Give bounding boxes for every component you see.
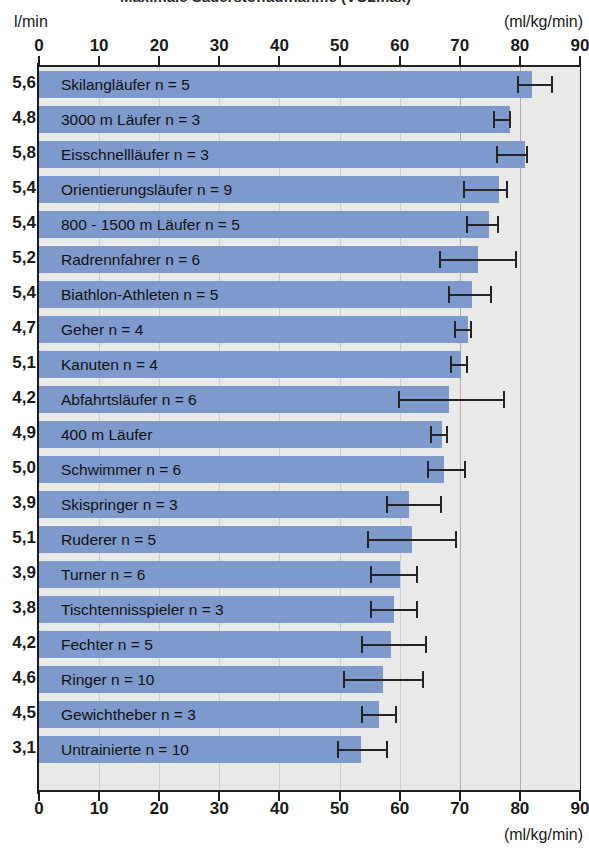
secondary-value-label: 4,8 [0,104,36,131]
tickmark-top-50 [339,56,341,65]
error-bar [367,531,457,548]
x-tick-label-bottom-0: 0 [34,799,43,819]
error-bar [370,601,418,618]
x-tick-label-bottom-80: 80 [510,799,529,819]
x-tick-label-top-90: 90 [571,36,589,56]
error-bar-stem [370,609,418,611]
error-bar [454,321,472,338]
error-bar-cap-low [439,251,441,268]
error-bar [361,636,427,653]
error-bar-cap-high [416,601,418,618]
error-bar-cap-low [337,741,339,758]
tickmark-bottom-70 [459,792,461,801]
tickmark-top-30 [218,56,220,65]
bar-label: Turner n = 6 [61,561,145,588]
x-tick-label-bottom-50: 50 [330,799,349,819]
bar-label: Untrainierte n = 10 [61,736,189,763]
bar-label: Orientierungsläufer n = 9 [61,176,232,203]
bar-label: Skispringer n = 3 [61,491,178,518]
error-bar [450,356,468,373]
bar-label: Skilangläufer n = 5 [61,71,190,98]
error-bar [496,146,528,163]
chart-row: Ruderer n = 5 [39,522,580,557]
x-tick-label-bottom-60: 60 [390,799,409,819]
bar-label: Eisschnellläufer n = 3 [61,141,209,168]
error-bar-cap-low [367,531,369,548]
chart-row: Turner n = 6 [39,557,580,592]
x-tick-label-top-70: 70 [450,36,469,56]
secondary-value-label: 5,4 [0,174,36,201]
error-bar-cap-high [395,706,397,723]
chart-row: Tischtennisspieler n = 3 [39,592,580,627]
x-tick-label-top-50: 50 [330,36,349,56]
error-bar [361,706,397,723]
error-bar-cap-high [526,146,528,163]
chart-row: Skispringer n = 3 [39,487,580,522]
x-axis-unit-label-bottom: (ml/kg/min) [504,826,583,844]
bar-label: Geher n = 4 [61,316,143,343]
x-tick-label-bottom-10: 10 [90,799,109,819]
y-axis-unit-label: l/min [14,13,48,31]
error-bar-stem [517,84,553,86]
secondary-value-label: 4,5 [0,699,36,726]
plot-area: Skilangläufer n = 53000 m Läufer n = 3Ei… [39,65,580,792]
chart-row: 3000 m Läufer n = 3 [39,102,580,137]
error-bar-cap-high [497,216,499,233]
error-bar [343,671,424,688]
error-bar [386,496,441,513]
chart-row: 400 m Läufer [39,417,580,452]
error-bar-cap-low [454,321,456,338]
error-bar [517,76,553,93]
x-tick-label-bottom-20: 20 [150,799,169,819]
secondary-value-label: 5,8 [0,139,36,166]
error-bar-stem [343,679,424,681]
secondary-value-label: 4,6 [0,664,36,691]
error-bar-stem [370,574,418,576]
secondary-value-label: 5,1 [0,524,36,551]
chart-row: Fechter n = 5 [39,627,580,662]
error-bar-stem [398,399,504,401]
bar-label: Ringer n = 10 [61,666,155,693]
x-axis-tick-labels-bottom: 0102030405060708090 [0,799,589,821]
x-tick-label-bottom-70: 70 [450,799,469,819]
secondary-value-label: 4,7 [0,314,36,341]
error-bar-cap-low [493,111,495,128]
error-bar [493,111,511,128]
error-bar-cap-high [551,76,553,93]
chart-row: Orientierungsläufer n = 9 [39,172,580,207]
error-bar [439,251,517,268]
x-tick-label-bottom-30: 30 [210,799,229,819]
bar-label: Biathlon-Athleten n = 5 [61,281,218,308]
bar-label: Kanuten n = 4 [61,351,158,378]
error-bar-stem [448,294,492,296]
bar-label: Fechter n = 5 [61,631,153,658]
error-bar [370,566,418,583]
secondary-value-label: 3,1 [0,734,36,761]
x-tick-label-top-30: 30 [210,36,229,56]
secondary-value-label: 5,0 [0,454,36,481]
error-bar-cap-high [466,356,468,373]
chart-row: Skilangläufer n = 5 [39,67,580,102]
vo2max-bar-chart: Maximale Sauerstoffaufnahme (VO2max) l/m… [0,0,589,852]
chart-row: 800 - 1500 m Läufer n = 5 [39,207,580,242]
error-bar-cap-low [466,216,468,233]
error-bar [337,741,388,758]
bar-label: Gewichtheber n = 3 [61,701,196,728]
chart-row: Geher n = 4 [39,312,580,347]
x-tick-label-top-80: 80 [510,36,529,56]
error-bar-cap-high [422,671,424,688]
x-axis-tick-labels-top: 0102030405060708090 [0,36,589,58]
tickmark-bottom-60 [399,792,401,801]
x-tick-label-top-40: 40 [270,36,289,56]
error-bar-cap-high [509,111,511,128]
secondary-value-label: 3,9 [0,489,36,516]
tickmark-bottom-30 [218,792,220,801]
error-bar-cap-high [470,321,472,338]
tickmark-top-20 [158,56,160,65]
error-bar-stem [463,189,508,191]
error-bar-stem [427,469,466,471]
bar-label: Schwimmer n = 6 [61,456,181,483]
tickmark-top-10 [98,56,100,65]
bar-label: Tischtennisspieler n = 3 [61,596,224,623]
error-bar-stem [439,259,517,261]
